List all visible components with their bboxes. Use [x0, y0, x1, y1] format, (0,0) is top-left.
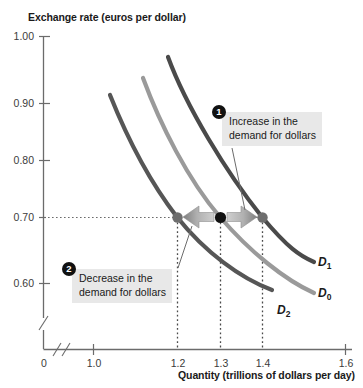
curve-label-d2: D2	[277, 303, 290, 319]
callout-increase-demand: Increase in the demand for dollars	[222, 112, 322, 146]
step-badge-2: 2	[62, 262, 76, 276]
equilibrium-dot-d2	[172, 212, 182, 222]
decrease-arrow	[183, 206, 214, 228]
equilibrium-dot-d1	[257, 212, 267, 222]
curve-label-d0: D0	[318, 286, 331, 302]
callout-2-leader-line	[178, 226, 192, 268]
y-tick-label-060: 0.60	[0, 277, 34, 289]
y-tick-label-090: 0.90	[0, 97, 34, 109]
chart-canvas	[0, 0, 363, 388]
exchange-rate-demand-chart: Exchange rate (euros per dollar) Quantit…	[0, 0, 363, 388]
curve-label-d1: D1	[318, 255, 331, 271]
axis-origin-label: 0	[27, 357, 61, 369]
curve-label-d1-base: D	[318, 255, 327, 269]
demand-curve-d0	[143, 78, 314, 293]
y-tick-label-100: 1.00	[0, 30, 34, 42]
x-tick-label-12: 1.2	[161, 357, 195, 369]
x-axis-title: Quantity (trillions of dollars per day)	[178, 369, 355, 381]
step-badge-1: 1	[212, 105, 226, 119]
callout-decrease-demand: Decrease in the demand for dollars	[72, 269, 172, 303]
increase-arrow	[227, 206, 257, 228]
x-tick-label-13: 1.3	[204, 357, 238, 369]
curve-label-d2-base: D	[277, 303, 286, 317]
x-tick-label-10: 1.0	[77, 357, 111, 369]
curve-label-d0-base: D	[318, 286, 327, 300]
equilibrium-dot-d0	[215, 212, 226, 223]
curve-label-d0-sub: 0	[327, 292, 332, 302]
y-axis-break-mark	[39, 316, 48, 330]
callout-increase-line2: demand for dollars	[229, 129, 316, 143]
callout-decrease-line2: demand for dollars	[79, 286, 166, 300]
x-tick-label-16: 1.6	[329, 357, 363, 369]
y-tick-label-080: 0.80	[0, 154, 34, 166]
y-axis-title: Exchange rate (euros per dollar)	[28, 11, 186, 23]
x-tick-label-14: 1.4	[246, 357, 280, 369]
curve-label-d2-sub: 2	[286, 309, 291, 319]
y-tick-label-070: 0.70	[0, 211, 34, 223]
callout-increase-line1: Increase in the	[229, 115, 316, 129]
callout-decrease-line1: Decrease in the	[79, 272, 166, 286]
curve-label-d1-sub: 1	[327, 261, 332, 271]
